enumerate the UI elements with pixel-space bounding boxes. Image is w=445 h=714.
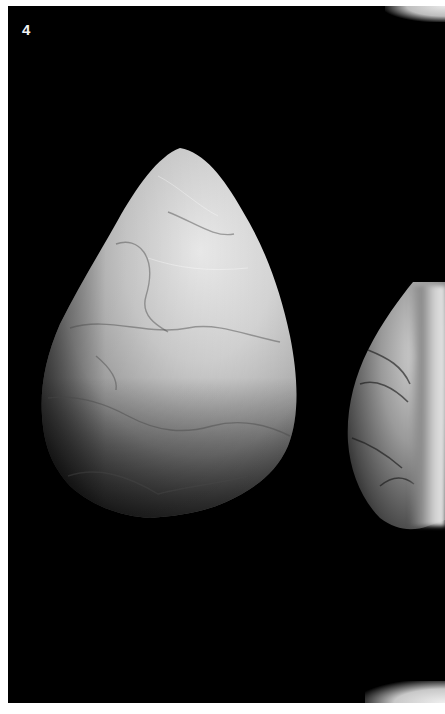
artifacts-illustration bbox=[8, 6, 445, 703]
photo-panel: 4 bbox=[8, 6, 445, 703]
page-edge-bottom bbox=[365, 681, 445, 703]
page-edge-right bbox=[409, 286, 445, 526]
hand-axe-shape bbox=[42, 148, 297, 518]
page-edge-top bbox=[385, 6, 445, 22]
plate-number-label: 4 bbox=[22, 22, 30, 37]
